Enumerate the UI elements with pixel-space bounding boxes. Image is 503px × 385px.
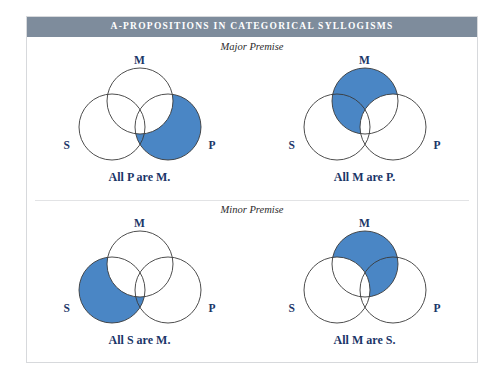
section-major-premise: Major Premise (27, 37, 477, 200)
venn-label-s: S (64, 140, 70, 152)
venn-label-p: P (433, 140, 440, 152)
venn-label-p: P (433, 303, 440, 315)
venn-diagram: M S P (281, 55, 449, 173)
venn-label-m: M (134, 55, 145, 67)
diagram-all-m-are-p: M S P All M are P. (252, 55, 477, 197)
diagram-row-major: M S P All P are M. (27, 55, 477, 197)
diagram-all-m-are-s: M S P All M are S. (252, 218, 477, 360)
section-label-minor: Minor Premise (27, 205, 477, 216)
section-label-major: Major Premise (27, 42, 477, 53)
venn-svg (281, 55, 449, 173)
venn-svg (281, 218, 449, 336)
venn-label-s: S (289, 140, 295, 152)
figure-panel: A-PROPOSITIONS IN CATEGORICAL SYLLOGISMS… (26, 16, 478, 363)
venn-svg (56, 218, 224, 336)
figure-body: Major Premise (27, 37, 477, 362)
diagram-all-s-are-m: M S P All S are M. (27, 218, 252, 360)
diagram-all-p-are-m: M S P All P are M. (27, 55, 252, 197)
venn-label-p: P (208, 303, 215, 315)
venn-caption: All P are M. (27, 171, 252, 183)
venn-caption: All S are M. (27, 334, 252, 346)
venn-caption: All M are P. (252, 171, 477, 183)
figure-title-bar: A-PROPOSITIONS IN CATEGORICAL SYLLOGISMS (27, 17, 477, 37)
venn-label-m: M (359, 218, 370, 230)
figure-title: A-PROPOSITIONS IN CATEGORICAL SYLLOGISMS (111, 22, 394, 32)
venn-svg (56, 55, 224, 173)
venn-label-m: M (134, 218, 145, 230)
venn-diagram: M S P (281, 218, 449, 336)
section-minor-premise: Minor Premise (27, 200, 477, 363)
venn-label-s: S (64, 303, 70, 315)
venn-diagram: M S P (56, 55, 224, 173)
venn-label-p: P (208, 140, 215, 152)
venn-label-m: M (359, 55, 370, 67)
venn-diagram: M S P (56, 218, 224, 336)
diagram-row-minor: M S P All S are M. (27, 218, 477, 360)
venn-label-s: S (289, 303, 295, 315)
venn-caption: All M are S. (252, 334, 477, 346)
